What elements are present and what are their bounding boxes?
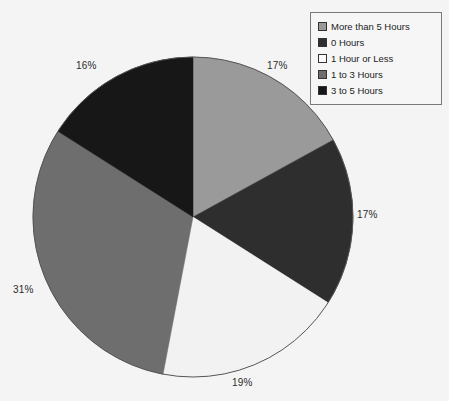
legend-swatch-icon bbox=[318, 54, 327, 63]
legend-item[interactable]: 1 to 3 Hours bbox=[318, 67, 435, 82]
slice-label-1-hour-or-less: 19% bbox=[232, 377, 253, 388]
legend-item[interactable]: More than 5 Hours bbox=[318, 19, 435, 34]
legend-item-label: 0 Hours bbox=[331, 37, 364, 48]
legend-swatch-icon bbox=[318, 38, 327, 47]
legend-item-label: 3 to 5 Hours bbox=[331, 85, 383, 96]
legend-swatch-icon bbox=[318, 22, 327, 31]
legend-item[interactable]: 1 Hour or Less bbox=[318, 51, 435, 66]
pie-slices-group bbox=[33, 57, 353, 377]
slice-label-1-to-3-hours: 31% bbox=[13, 284, 34, 295]
legend-item[interactable]: 3 to 5 Hours bbox=[318, 83, 435, 98]
chart-legend: More than 5 Hours0 Hours1 Hour or Less1 … bbox=[310, 12, 442, 105]
slice-label-3-to-5-hours: 16% bbox=[76, 60, 97, 71]
legend-item-label: 1 Hour or Less bbox=[331, 53, 393, 64]
legend-item-label: More than 5 Hours bbox=[331, 21, 410, 32]
pie-chart-page: 17% 17% 19% 31% 16% More than 5 Hours0 H… bbox=[0, 0, 449, 401]
slice-label-more-than-5-hours: 17% bbox=[267, 60, 288, 71]
legend-item[interactable]: 0 Hours bbox=[318, 35, 435, 50]
slice-label-0-hours: 17% bbox=[357, 209, 378, 220]
legend-swatch-icon bbox=[318, 70, 327, 79]
legend-swatch-icon bbox=[318, 86, 327, 95]
legend-item-label: 1 to 3 Hours bbox=[331, 69, 383, 80]
